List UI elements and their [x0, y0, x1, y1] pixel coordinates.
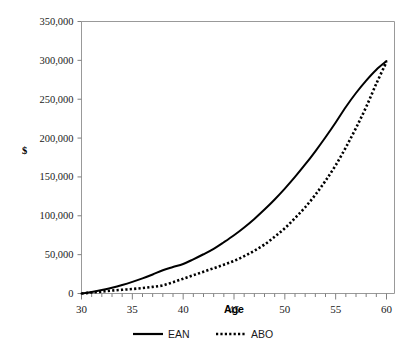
line-chart: 050,000100,000150,000200,000250,000300,0…: [0, 0, 412, 351]
x-tick-label: 35: [127, 303, 139, 315]
y-axis-title: $: [22, 145, 27, 156]
y-tick-label: 250,000: [39, 94, 73, 105]
y-tick-label: 0: [68, 288, 73, 299]
y-tick-label: 350,000: [39, 16, 73, 27]
x-tick-label: 55: [330, 303, 342, 315]
legend-label-ean: EAN: [168, 328, 190, 340]
plot-border: [82, 22, 395, 294]
y-tick-label: 200,000: [39, 133, 73, 144]
chart-container: 050,000100,000150,000200,000250,000300,0…: [0, 0, 412, 351]
x-tick-label: 40: [178, 303, 190, 315]
legend-label-abo: ABO: [251, 328, 273, 340]
chart-legend: EANABO: [133, 328, 273, 340]
x-tick-label: 30: [76, 303, 88, 315]
series-line-abo: [82, 62, 387, 294]
y-axis-ticks: 050,000100,000150,000200,000250,000300,0…: [39, 16, 81, 299]
series-line-ean: [82, 61, 387, 293]
x-tick-label: 60: [381, 303, 393, 315]
plot-frame: [82, 22, 395, 294]
x-tick-label: 50: [279, 303, 291, 315]
y-tick-label: 100,000: [39, 210, 73, 221]
y-tick-label: 50,000: [45, 249, 74, 260]
y-tick-label: 300,000: [39, 55, 73, 66]
y-tick-label: 150,000: [39, 171, 73, 182]
x-axis-title: Age: [224, 303, 244, 315]
data-series: [82, 61, 387, 293]
